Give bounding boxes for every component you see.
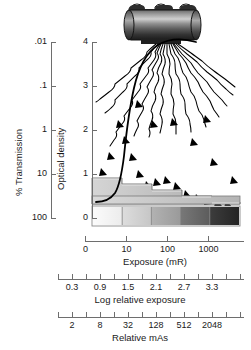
log-relative-exposure-tick [212, 274, 213, 280]
log-relative-exposure-tick [170, 274, 171, 280]
relative-mas-tick-label: 128 [142, 321, 170, 330]
log-relative-exposure-tick [198, 274, 199, 280]
relative-mas-tick-label: 32 [114, 321, 142, 330]
log-relative-exposure-tick [86, 274, 87, 280]
log-relative-exposure-tick-label: 2.7 [170, 283, 198, 292]
transmission-tick-label: 100 [16, 213, 47, 222]
exposure-tick-label: 100 [153, 245, 182, 254]
transmission-tick-label: .1 [16, 81, 47, 90]
exposure-tick-label: 10 [112, 245, 141, 254]
relative-mas-tick [100, 312, 101, 318]
log-relative-exposure-tick [114, 274, 115, 280]
optical-density-tick [92, 130, 97, 131]
log-relative-exposure-axis-title: Log relative exposure [50, 295, 230, 305]
optical-density-tick [92, 86, 97, 87]
log-relative-exposure-tick [128, 274, 129, 280]
x-ray-tube-housing [124, 4, 201, 44]
relative-mas-tick-label: 8 [86, 321, 114, 330]
relative-mas-tick-label: 512 [170, 321, 198, 330]
optical-density-tick-label: 4 [72, 37, 88, 46]
relative-mas-tick [198, 312, 199, 318]
optical-density-tick-label: 2 [72, 125, 88, 134]
relative-mas-tick [142, 312, 143, 318]
exposure-axis-title: Exposure (mR) [75, 257, 235, 267]
exposure-axis-line [85, 241, 244, 242]
transmission-tick [51, 86, 56, 87]
optical-density-tick-label: 1 [72, 169, 88, 178]
transmission-tick [51, 42, 56, 43]
exposure-tick-label: 0 [71, 245, 100, 254]
log-relative-exposure-tick [226, 274, 227, 280]
transmission-tick [51, 218, 56, 219]
log-relative-exposure-tick-label: 0.3 [58, 283, 86, 292]
log-relative-exposure-tick-label: 2.1 [142, 283, 170, 292]
relative-mas-tick [156, 312, 157, 318]
log-relative-exposure-tick [58, 274, 59, 280]
log-relative-exposure-tick [72, 274, 73, 280]
relative-mas-tick [170, 312, 171, 318]
log-relative-exposure-tick [100, 274, 101, 280]
relative-mas-tick [58, 312, 59, 318]
exposure-tick [85, 236, 86, 242]
optical-density-tick-label: 3 [72, 81, 88, 90]
exposure-tick-label: 1000 [194, 245, 223, 254]
relative-mas-tick [114, 312, 115, 318]
relative-mas-tick-label: 2048 [197, 321, 227, 330]
exposure-tick [167, 236, 168, 242]
transmission-axis-title: % Transmission [14, 129, 24, 196]
relative-mas-tick [128, 312, 129, 318]
relative-mas-tick [226, 312, 227, 318]
log-relative-exposure-tick [156, 274, 157, 280]
log-relative-exposure-tick-label: 1.5 [114, 283, 142, 292]
optical-density-tick [92, 174, 97, 175]
relative-mas-tick [212, 312, 213, 318]
optical-density-tick [92, 42, 97, 43]
film-step-tablet [92, 206, 240, 226]
relative-mas-tick [240, 312, 241, 318]
relative-mas-tick [86, 312, 87, 318]
exposure-tick [126, 236, 127, 242]
relative-mas-tick [72, 312, 73, 318]
log-relative-exposure-tick [142, 274, 143, 280]
relative-mas-axis-title: Relative mAs [50, 333, 230, 343]
transmission-tick-label: .01 [16, 37, 47, 46]
optical-density-axis-title: Optical density [56, 128, 66, 190]
relative-mas-tick-label: 2 [58, 321, 86, 330]
x-ray-beam-bundle [96, 44, 235, 146]
figure-canvas: .01 .1 1 10 100 % Transmission 4 3 2 1 0… [0, 0, 251, 350]
optical-density-tick-label: 0 [72, 213, 88, 222]
log-relative-exposure-tick [184, 274, 185, 280]
log-relative-exposure-tick-label: 0.9 [86, 283, 114, 292]
log-relative-exposure-tick-label: 3.3 [198, 283, 226, 292]
relative-mas-tick [184, 312, 185, 318]
optical-density-tick [92, 218, 97, 219]
exposure-tick [208, 236, 209, 242]
log-relative-exposure-tick [240, 274, 241, 280]
